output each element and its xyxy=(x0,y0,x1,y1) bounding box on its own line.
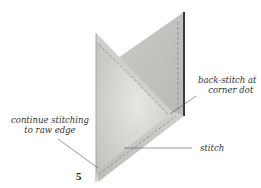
backstitch-label: back-stitch at corner dot xyxy=(198,75,256,95)
continue-label-line1: continue stitching xyxy=(11,115,89,125)
step-number: 5 xyxy=(76,170,82,182)
backstitch-label-line1: back-stitch at xyxy=(198,75,256,85)
sewing-diagram: back-stitch at corner dot continue stitc… xyxy=(0,0,261,188)
backstitch-label-line2: corner dot xyxy=(198,85,256,95)
stitch-label: stitch xyxy=(200,143,224,153)
continue-label-line2: to raw edge xyxy=(11,125,89,135)
continue-stitching-label: continue stitching to raw edge xyxy=(11,115,89,135)
continue-leader-line xyxy=(58,139,98,168)
